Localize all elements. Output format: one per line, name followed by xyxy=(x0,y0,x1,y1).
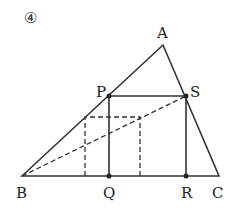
label-a: A xyxy=(156,24,168,42)
label-r: R xyxy=(181,184,193,202)
dashed-rectangle xyxy=(85,117,140,176)
geometry-diagram: ④ A B C P Q R S xyxy=(0,0,233,221)
point-q xyxy=(107,174,112,179)
label-s: S xyxy=(190,83,200,101)
label-b: B xyxy=(16,184,27,202)
point-r xyxy=(184,174,189,179)
rectangle-pqrs xyxy=(109,96,186,176)
problem-number: ④ xyxy=(24,9,37,27)
triangle-abc xyxy=(22,45,219,176)
label-q: Q xyxy=(103,184,115,202)
label-c: C xyxy=(212,184,223,202)
point-s xyxy=(184,94,189,99)
dashed-line-bs xyxy=(22,96,186,176)
point-p xyxy=(107,94,112,99)
label-p: P xyxy=(96,83,106,101)
